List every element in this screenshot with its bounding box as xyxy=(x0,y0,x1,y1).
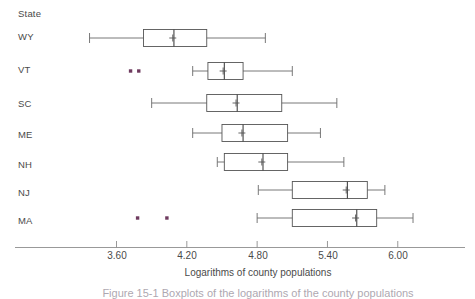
boxplot-nj xyxy=(258,182,385,199)
box-iqr xyxy=(292,210,376,227)
box-iqr xyxy=(222,125,288,142)
boxplot-nh xyxy=(217,154,344,171)
box-iqr xyxy=(224,154,287,171)
outlier-point xyxy=(136,216,139,219)
boxplot-series-group xyxy=(90,30,413,227)
x-axis-ticks xyxy=(117,241,398,248)
boxplot-me xyxy=(193,125,321,142)
boxplot-wy xyxy=(90,30,266,47)
boxplot-vt xyxy=(129,63,292,80)
outlier-point xyxy=(129,69,132,72)
x-axis-group xyxy=(15,241,465,248)
boxplot-ma xyxy=(136,210,413,227)
box-iqr xyxy=(207,95,282,112)
outlier-point xyxy=(165,216,168,219)
boxplot-sc xyxy=(152,95,337,112)
outlier-point xyxy=(137,69,140,72)
box-iqr xyxy=(292,182,367,199)
